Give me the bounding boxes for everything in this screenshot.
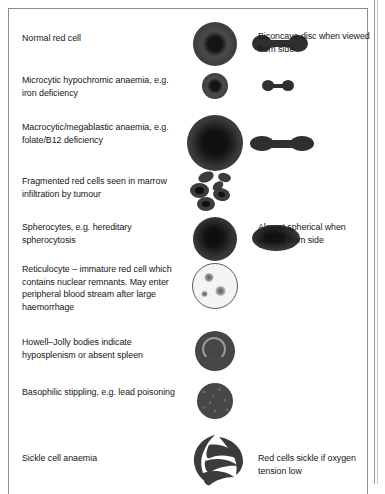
page-gutter-rule <box>374 0 375 484</box>
row-description: Reticulocyte – immature red cell which c… <box>22 263 188 313</box>
fragmented-cells-cluster-icon <box>189 171 245 211</box>
microcytic-cell-top-view-icon <box>202 73 228 99</box>
figure-row-macrocytic-megaloblastic: Macrocytic/megablastic anaemia, e.g. fol… <box>9 115 369 134</box>
row-description: Fragmented red cells seen in marrow infi… <box>22 175 182 200</box>
figure-row-normal-red-cell: Normal red cell Biconcave disc when view… <box>9 9 369 29</box>
row-note: Red cells sickle if oxygen tension low <box>258 452 370 477</box>
row-note: Almost spherical when viewed from side <box>258 221 370 246</box>
figure-row-microcytic-hypochromic: Microcytic hypochromic anaemia, e.g. iro… <box>9 69 369 82</box>
figure-frame: Normal red cell Biconcave disc when view… <box>8 8 368 494</box>
row-description: Basophilic stippling, e.g. lead poisonin… <box>22 386 182 399</box>
reticulocyte-top-view-icon <box>192 263 238 309</box>
row-description: Spherocytes, e.g. hereditary spherocytos… <box>22 221 182 246</box>
macrocytic-cell-top-view-icon <box>187 115 243 171</box>
howell-jolly-cell-top-view-icon <box>195 331 235 371</box>
red-cell-top-view-icon <box>193 22 237 66</box>
row-description: Howell–Jolly bodies indicate hyposplenis… <box>22 336 182 361</box>
row-note: Biconcave disc when viewed from side <box>258 30 370 55</box>
row-description: Microcytic hypochromic anaemia, e.g. iro… <box>22 74 182 99</box>
microcytic-cell-side-view-icon <box>262 80 294 93</box>
row-description: Sickle cell anaemia <box>22 452 182 465</box>
row-description: Macrocytic/megablastic anaemia, e.g. fol… <box>22 121 182 146</box>
basophilic-stippling-cell-icon <box>197 383 233 419</box>
macrocytic-cell-side-view-icon <box>250 134 314 153</box>
sickle-cells-cluster-icon <box>185 431 251 493</box>
row-description: Normal red cell <box>22 32 182 45</box>
page-gutter-rule-secondary <box>377 0 378 484</box>
spherocyte-top-view-icon <box>193 217 237 261</box>
